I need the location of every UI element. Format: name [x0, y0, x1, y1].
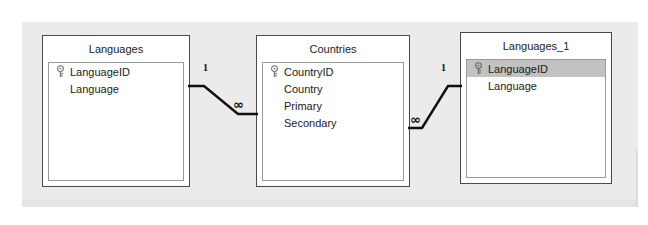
field-row[interactable]: LanguageID — [49, 63, 183, 80]
canvas-right-edge — [636, 150, 638, 207]
key-icon — [55, 65, 66, 78]
cardinality-many-countries-2: ∞ — [410, 115, 420, 125]
canvas-bottom-shade — [22, 200, 638, 207]
table-title-countries: Countries — [257, 36, 409, 60]
field-row[interactable]: Secondary — [263, 114, 403, 131]
key-icon — [269, 65, 280, 78]
relationship-line-languages-countries[interactable] — [188, 78, 260, 123]
field-label: CountryID — [284, 66, 334, 78]
cardinality-one-languages: 1 — [203, 63, 208, 73]
field-row[interactable]: CountryID — [263, 63, 403, 80]
field-row[interactable]: Primary — [263, 97, 403, 114]
table-title-languages-1: Languages_1 — [461, 33, 611, 57]
table-box-countries[interactable]: Countries CountryID Country Primary Seco… — [256, 35, 410, 187]
field-row[interactable]: Language — [467, 77, 605, 94]
field-row-selected[interactable]: LanguageID — [467, 60, 605, 77]
field-label: LanguageID — [70, 66, 130, 78]
field-label: Language — [488, 80, 537, 92]
table-box-languages[interactable]: Languages LanguageID Language — [42, 35, 190, 187]
field-label: Primary — [284, 100, 322, 112]
cardinality-one-languages-1: 1 — [441, 63, 446, 73]
table-title-languages: Languages — [43, 36, 189, 60]
field-list-languages-1[interactable]: LanguageID Language — [466, 59, 606, 178]
field-row[interactable]: Country — [263, 80, 403, 97]
field-label: Secondary — [284, 117, 337, 129]
field-label: Country — [284, 83, 323, 95]
field-row[interactable]: Language — [49, 80, 183, 97]
field-label: LanguageID — [488, 63, 548, 75]
field-label: Language — [70, 83, 119, 95]
relationship-line-countries-languages-1[interactable] — [408, 78, 464, 138]
relationships-window: Languages LanguageID Language Countries — [0, 0, 648, 225]
table-box-languages-1[interactable]: Languages_1 LanguageID Language — [460, 32, 612, 184]
key-icon — [473, 62, 484, 75]
field-list-countries[interactable]: CountryID Country Primary Secondary — [262, 62, 404, 181]
field-list-languages[interactable]: LanguageID Language — [48, 62, 184, 181]
cardinality-many-countries: ∞ — [233, 100, 243, 110]
